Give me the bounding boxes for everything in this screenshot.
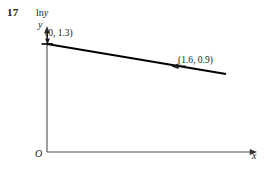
- data-point-label-0: (0, 1.3): [45, 28, 73, 39]
- graph-figure: 17 lny y x O (0, 1.3) (1.6, 0.9): [0, 0, 266, 169]
- y-axis-quantity-label: lny: [36, 7, 48, 18]
- x-axis-label: x: [252, 150, 256, 161]
- origin-label: O: [35, 148, 42, 159]
- ln-text: ln: [36, 7, 44, 18]
- data-point-label-1: (1.6, 0.9): [178, 55, 213, 66]
- y-axis-label: y: [38, 19, 42, 30]
- ln-variable: y: [44, 7, 48, 18]
